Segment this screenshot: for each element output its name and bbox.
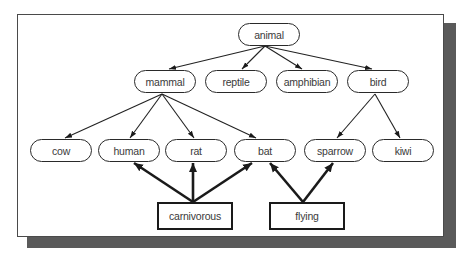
edge-bird-sparrow bbox=[337, 94, 375, 138]
edge-bird-kiwi bbox=[375, 94, 400, 138]
edge-mammal-bat bbox=[162, 94, 256, 138]
node-bat: bat bbox=[234, 139, 296, 162]
node-kiwi-label: kiwi bbox=[395, 145, 412, 157]
node-animal-label: animal bbox=[254, 29, 284, 41]
node-cow-label: cow bbox=[52, 145, 70, 157]
node-reptile: reptile bbox=[205, 70, 267, 93]
node-bat-label: bat bbox=[258, 145, 272, 157]
property-flying-label: flying bbox=[295, 210, 318, 222]
node-kiwi: kiwi bbox=[372, 139, 434, 162]
edge-carnivorous-bat bbox=[193, 163, 252, 202]
node-cow: cow bbox=[30, 139, 92, 162]
edge-animal-reptile bbox=[242, 46, 265, 69]
edge-animal-mammal bbox=[169, 46, 265, 69]
node-sparrow: sparrow bbox=[304, 139, 366, 162]
node-human-label: human bbox=[113, 145, 144, 157]
node-rat-label: rat bbox=[190, 145, 202, 157]
node-amphibian: amphibian bbox=[276, 70, 338, 93]
node-reptile-label: reptile bbox=[222, 76, 249, 88]
node-rat: rat bbox=[165, 139, 227, 162]
property-carnivorous: carnivorous bbox=[157, 202, 233, 230]
node-mammal-label: mammal bbox=[145, 76, 184, 88]
node-animal: animal bbox=[238, 23, 300, 46]
node-bird-label: bird bbox=[370, 76, 387, 88]
node-bird: bird bbox=[347, 70, 409, 93]
edge-mammal-rat bbox=[162, 94, 194, 138]
edge-layer bbox=[0, 0, 470, 257]
property-carnivorous-label: carnivorous bbox=[169, 210, 221, 222]
edge-flying-sparrow bbox=[303, 163, 333, 202]
edge-mammal-cow bbox=[65, 94, 162, 138]
edge-flying-bat bbox=[270, 163, 303, 202]
property-flying: flying bbox=[269, 202, 345, 230]
node-amphibian-label: amphibian bbox=[284, 76, 331, 88]
edge-mammal-human bbox=[130, 94, 162, 138]
node-sparrow-label: sparrow bbox=[317, 145, 353, 157]
node-mammal: mammal bbox=[134, 70, 196, 93]
node-human: human bbox=[98, 139, 160, 162]
edge-animal-bird bbox=[265, 46, 372, 69]
edge-carnivorous-human bbox=[134, 163, 193, 202]
